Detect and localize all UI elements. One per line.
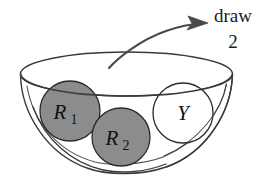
annotation-line-2: 2: [228, 31, 238, 52]
annotation-line-1: draw: [214, 5, 252, 26]
ball-r2-circle: [92, 108, 150, 166]
ball-r2: R 2: [92, 108, 150, 166]
urn-draw-diagram: Y R 1 R 2 draw 2: [0, 0, 273, 188]
ball-r1-label: R: [53, 100, 67, 124]
ball-r2-label: R: [105, 126, 119, 150]
ball-r1-circle: [40, 81, 100, 141]
ball-r1: R 1: [40, 81, 100, 141]
ball-r1-subscript: 1: [71, 112, 78, 127]
ball-r2-subscript: 2: [123, 138, 130, 153]
